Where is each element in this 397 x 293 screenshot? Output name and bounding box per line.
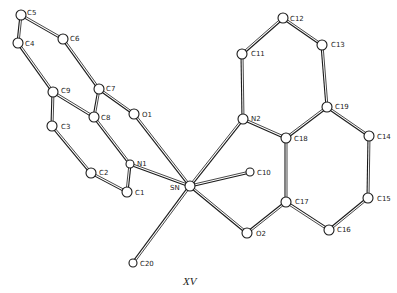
atom-c12 [278,13,288,23]
atom-label-o1: O1 [142,111,152,119]
atom-o1 [129,109,139,119]
bond-c7-o1 [98,88,134,115]
bond-c3-c2 [51,125,92,173]
atom-label-c19: C19 [335,103,349,111]
bond-sn-c20 [132,185,191,263]
bond-c14-c15 [367,136,370,198]
bond-n2-c18 [243,118,287,139]
atom-n2 [238,114,248,124]
bond-c9-c8 [52,91,94,118]
atom-label-c14: C14 [377,133,391,141]
atom-label-n1: N1 [137,160,147,168]
atom-label-c15: C15 [377,195,391,203]
atom-c20 [129,259,137,267]
atom-label-c9: C9 [61,87,70,95]
atom-label-c3: C3 [61,123,70,131]
atom-c7 [94,84,104,94]
atom-c8 [89,112,99,122]
atom-c9 [48,87,58,97]
bond-c8-n1 [93,116,131,164]
atom-label-sn: SN [170,184,180,192]
atom-c6 [58,34,68,44]
bond-c4-c9 [17,42,54,92]
atom-label-c16: C16 [337,226,351,234]
bond-layer [17,14,370,263]
bond-c18-c19 [285,106,327,139]
atom-label-c18: C18 [294,135,308,143]
bond-c17-o2 [246,201,286,234]
atom-n1 [126,160,134,168]
bond-c13-c19 [321,45,328,107]
bond-sn-o2 [189,185,247,234]
atom-c10 [246,168,254,176]
atom-label-c7: C7 [106,85,115,93]
molecular-structure-figure: C5C6C4C9C7C8O1C3C2C1N1SNC12C13C11N2C19C1… [0,0,397,293]
atom-c4 [13,38,23,48]
atom-c17 [281,197,291,207]
atom-label-n2: N2 [251,115,261,123]
atom-label-c8: C8 [101,114,110,122]
atom-label-c4: C4 [25,40,35,48]
molecule-diagram: C5C6C4C9C7C8O1C3C2C1N1SNC12C13C11N2C19C1… [0,0,397,293]
atom-label-c10: C10 [257,169,271,177]
atom-sn [185,181,195,191]
atom-c11 [237,49,247,59]
atom-label-c5: C5 [27,9,36,17]
bond-c11-n2 [241,54,244,119]
atom-c19 [322,102,332,112]
bond-o1-sn [133,113,191,186]
atom-label-c13: C13 [331,41,345,49]
atom-c1 [122,187,132,197]
atom-label-c1: C1 [135,189,144,197]
atom-c13 [317,40,327,50]
atom-c14 [364,131,374,141]
atom-c3 [47,121,57,131]
atom-c16 [324,225,334,235]
bond-c5-c6 [21,14,64,40]
atom-label-c17: C17 [295,198,309,206]
atom-label-c20: C20 [140,260,154,268]
atom-o2 [242,228,252,238]
atom-c15 [363,193,373,203]
atom-c2 [86,168,96,178]
atom-c18 [281,133,291,143]
figure-caption: XV [182,275,198,287]
atom-label-c2: C2 [99,169,108,177]
atom-label-o2: O2 [256,230,266,238]
bond-c6-c7 [62,38,100,89]
bond-c18-c17 [285,138,287,202]
atom-c5 [16,10,26,20]
atom-label-c11: C11 [251,50,265,58]
atom-label-c6: C6 [70,35,80,43]
atom-label-c12: C12 [290,15,304,23]
atom-layer [13,10,374,267]
label-layer: C5C6C4C9C7C8O1C3C2C1N1SNC12C13C11N2C19C1… [25,9,391,268]
